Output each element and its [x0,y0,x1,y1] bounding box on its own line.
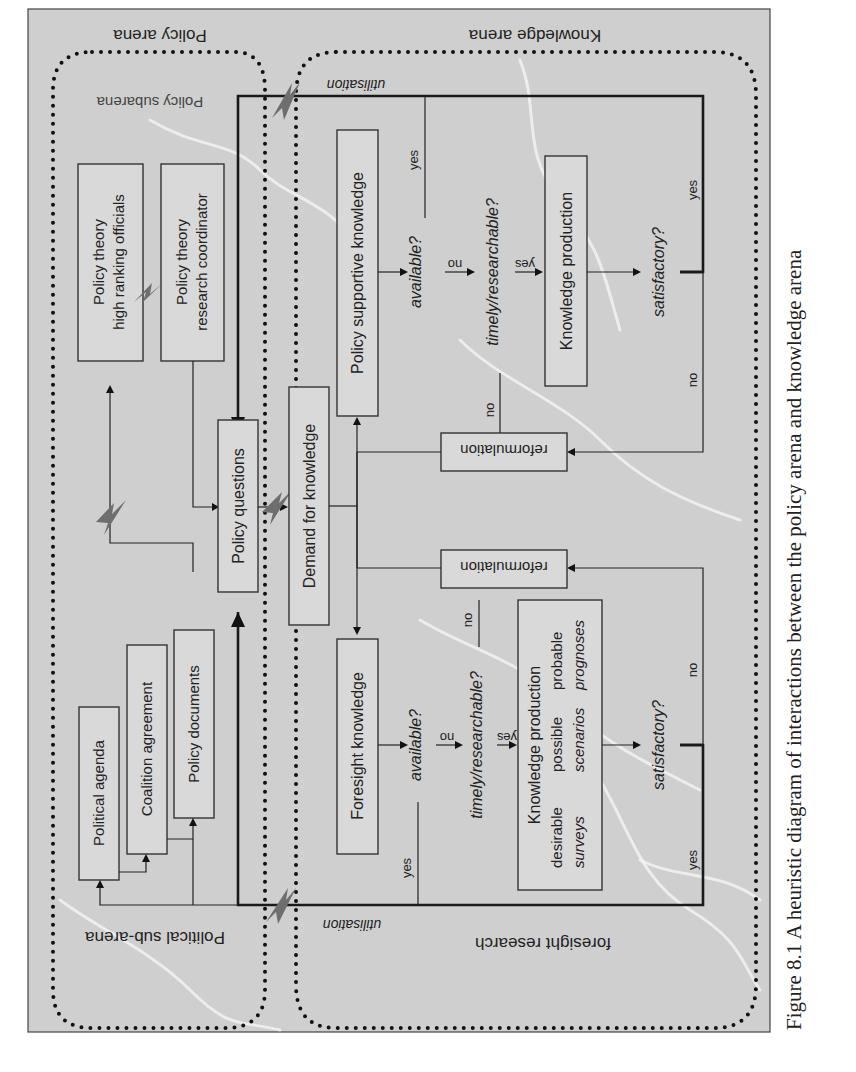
decision-satisfactory-bottom: satisfactory? [650,700,667,790]
node-label: Policy supportive knowledge [349,172,366,374]
policy-arena-label: Policy arena [113,26,207,45]
node-label: Foresight knowledge [349,672,366,820]
node-label: Policy questions [230,448,247,564]
yes-label: yes [685,849,700,870]
node-label: probable [548,632,565,690]
node-label: prognoses [570,619,587,691]
node-label: Policy theory [90,219,107,305]
decision-available-top: available? [407,236,424,308]
node-label: Knowledge production [558,192,575,350]
node-label: surveys [570,816,587,868]
node-label: reformulation [460,442,548,459]
foresight-knowledge-box: Foresight knowledge [337,639,378,854]
knowledge-production-top-box: Knowledge production [545,156,587,386]
yes-label: yes [496,730,517,745]
node-label: high ranking officials [110,194,127,330]
political-subarena-label: Political sub-arena [85,928,225,947]
no-label: no [460,613,475,627]
reformulation-bottom-box: reformulation [441,550,567,588]
utilisation-label-top: utilisation [327,77,386,93]
no-label: no [482,403,497,417]
node-label: Demand for knowledge [301,424,318,589]
utilisation-label-bottom: utilisation [323,917,382,933]
figure-caption: Figure 8.1 A heuristic diagram of intera… [782,249,806,1030]
diagram-figure: Policy arena Policy subarena Political s… [0,0,856,1072]
node-label: reformulation [460,559,548,576]
no-label: no [448,257,462,272]
node-label: possible [548,717,565,772]
decision-satisfactory-top: satisfactory? [650,227,667,317]
policy-supportive-knowledge-box: Policy supportive knowledge [337,130,378,416]
policy-theory-officials-box: Policy theory high ranking officials [78,164,143,361]
yes-label: yes [399,857,414,878]
node-label: Political agenda [90,739,107,846]
reformulation-top-box: reformulation [441,433,567,471]
yes-label: yes [406,149,421,170]
no-label: no [440,730,454,745]
decision-timely-bottom: timely/researchable? [468,671,485,819]
node-label: Policy documents [185,665,202,783]
node-label: Policy theory [173,219,190,305]
policy-questions-box: Policy questions [218,420,258,592]
policy-documents-box: Policy documents [174,630,214,818]
node-label: Knowledge production [526,666,543,824]
decision-timely-top: timely/researchable? [484,198,501,346]
yes-label: yes [514,257,535,272]
political-agenda-box: Political agenda [79,707,119,880]
node-label: scenarios [570,707,587,772]
node-label: desirable [548,807,565,868]
knowledge-production-bottom-box: Knowledge production desirable possible … [518,600,602,890]
decision-available-bottom: available? [407,709,424,781]
no-label: no [685,663,700,677]
yes-label: yes [685,179,700,200]
knowledge-arena-label: Knowledge arena [468,26,601,45]
no-label: no [685,373,700,387]
policy-subarena-label: Policy subarena [96,94,203,111]
node-label: Coalition agreement [138,681,155,816]
demand-for-knowledge-box: Demand for knowledge [289,387,329,625]
node-label: research coordinator [193,193,210,331]
policy-theory-coordinator-box: Policy theory research coordinator [161,164,224,361]
foresight-research-label: foresight research [475,934,611,953]
coalition-agreement-box: Coalition agreement [127,645,167,854]
